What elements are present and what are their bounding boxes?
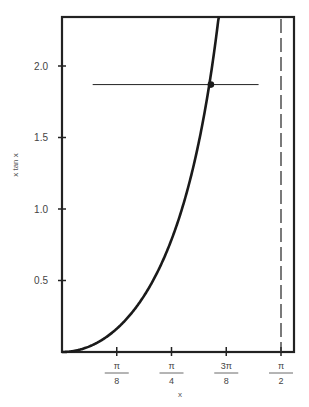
intersection-point [208,81,215,88]
x-tick-denominator: 8 [224,376,229,386]
x-tick-numerator: π [168,361,174,371]
x-axis-label: x [178,390,182,399]
y-tick-label: 2.0 [34,61,48,72]
x-tick-numerator: π [278,361,284,371]
chart: 0.51.01.52.0 π8π43π8π2 x x tan x [0,0,309,407]
x-tick-numerator: π [114,361,120,371]
y-axis-label: x tan x [11,153,20,177]
plot-frame [62,17,294,352]
x-tick-numerator: 3π [221,361,232,371]
x-tick-denominator: 2 [278,376,283,386]
x-tick-denominator: 4 [169,376,174,386]
y-tick-label: 0.5 [34,275,48,286]
x-tick-denominator: 8 [114,376,119,386]
y-tick-label: 1.5 [34,132,48,143]
y-tick-label: 1.0 [34,204,48,215]
curve-x-tan-x [62,17,219,352]
